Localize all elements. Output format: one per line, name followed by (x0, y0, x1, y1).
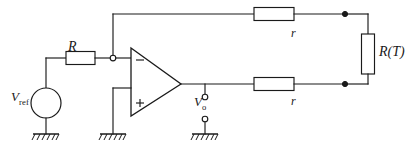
schematic-canvas (0, 0, 414, 152)
feedback-path-top (113, 14, 254, 56)
label-vo: Vo (194, 95, 206, 111)
junction-top-right (342, 11, 368, 34)
voltage-source-vref (31, 58, 61, 134)
ground-vref (32, 134, 59, 140)
opamp-triangle (131, 48, 181, 116)
source-circle (31, 88, 61, 118)
label-resistor-r-bottom: r (291, 95, 296, 107)
resistor-r-bottom (254, 78, 345, 91)
junction-dot-bottom (342, 81, 347, 86)
label-vo-main: V (194, 94, 202, 109)
junction-bottom-right (342, 74, 368, 87)
label-vo-sub: o (202, 102, 207, 112)
circuit-diagram: R r r R(T) Vref Vo (0, 0, 414, 152)
resistor-r-bottom-body (254, 78, 294, 91)
node-output-terminal-bottom (202, 116, 208, 122)
label-vref: Vref (11, 90, 29, 106)
noninverting-input-path (113, 88, 131, 134)
thermistor-RT-body (362, 34, 375, 74)
label-thermistor-RT: R(T) (379, 45, 405, 59)
resistor-r-top-body (254, 8, 294, 21)
ground-noninverting (99, 134, 126, 140)
label-resistor-R: R (68, 40, 77, 54)
label-resistor-r-top: r (291, 27, 296, 39)
label-vref-sub: ref (19, 97, 29, 107)
thermistor-RT (362, 34, 375, 74)
opamp (131, 48, 181, 116)
resistor-r-top (254, 8, 345, 21)
ground-output (191, 134, 218, 140)
label-vref-main: V (11, 89, 19, 104)
